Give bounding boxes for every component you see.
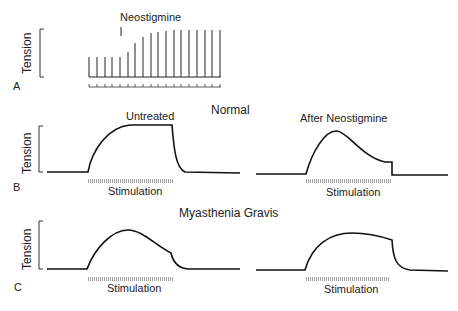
figure-canvas <box>0 0 458 311</box>
twitch-bars <box>89 30 220 77</box>
panel-b <box>39 125 448 183</box>
y-axis-label-b: Tension <box>21 133 33 174</box>
stimulation-label-b-right: Stimulation <box>326 187 380 198</box>
trace-mg-after-neostigmine <box>256 233 448 271</box>
stimulation-bar-c-right <box>305 277 390 281</box>
condition-label-after-neostigmine: After Neostigmine <box>300 113 387 124</box>
trace-mg-untreated <box>47 230 240 269</box>
neostigmine-arrow-icon <box>119 27 124 38</box>
tension-scale-bracket-c <box>39 221 43 269</box>
y-axis-label-c: Tension <box>21 229 33 270</box>
stimulation-bar-b-right <box>306 179 391 183</box>
stimulation-label-b-left: Stimulation <box>108 186 162 197</box>
stimulus-ticks <box>89 84 220 87</box>
group-title-normal: Normal <box>211 104 250 116</box>
y-axis-label-a: Tension <box>21 33 33 74</box>
stimulation-bar-b-left <box>88 179 173 183</box>
drug-label-neostigmine: Neostigmine <box>120 12 181 23</box>
panel-letter-c: C <box>14 282 22 293</box>
tension-scale-bracket-b <box>39 126 43 172</box>
group-title-myasthenia-gravis: Myasthenia Gravis <box>179 207 278 219</box>
trace-normal-untreated <box>47 125 240 173</box>
tension-scale-bracket-a <box>40 29 44 77</box>
trace-normal-after-neostigmine <box>256 131 448 175</box>
condition-label-untreated: Untreated <box>126 111 174 122</box>
panel-c <box>39 221 448 281</box>
stimulation-label-c-right: Stimulation <box>324 284 378 295</box>
panel-letter-b: B <box>13 182 20 193</box>
stimulation-label-c-left: Stimulation <box>107 283 161 294</box>
panel-a <box>40 27 221 87</box>
stimulation-bar-c-left <box>88 277 173 281</box>
panel-letter-a: A <box>13 81 20 92</box>
